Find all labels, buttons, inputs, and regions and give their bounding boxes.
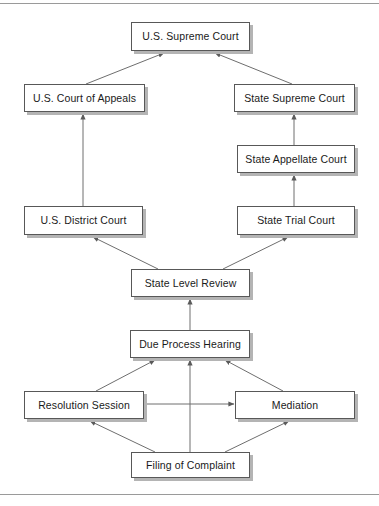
node-label: State Appellate Court [245, 154, 346, 165]
edge-filing-to-mediation [225, 421, 289, 452]
node-label: State Level Review [145, 278, 237, 289]
edge-mediation-to-hearing [225, 360, 283, 391]
edge-filing-to-resolution [90, 421, 155, 452]
node-state-supreme-court[interactable]: State Supreme Court [234, 84, 355, 112]
node-us-court-of-appeals[interactable]: U.S. Court of Appeals [24, 84, 145, 112]
edge-appeals-to-supreme [86, 53, 164, 84]
flow-diagram: U.S. Supreme Court U.S. Court of Appeals… [0, 0, 379, 506]
node-resolution-session[interactable]: Resolution Session [24, 391, 144, 419]
node-filing-of-complaint[interactable]: Filing of Complaint [131, 452, 250, 478]
node-us-supreme-court[interactable]: U.S. Supreme Court [131, 22, 250, 51]
node-state-appellate-court[interactable]: State Appellate Court [237, 145, 355, 173]
edge-review-to-district [93, 237, 158, 269]
node-label: U.S. Court of Appeals [33, 93, 136, 104]
node-label: U.S. Supreme Court [142, 31, 238, 42]
node-label: Resolution Session [38, 400, 130, 411]
edge-review-to-trial [223, 237, 288, 269]
node-label: Due Process Hearing [139, 339, 241, 350]
edge-resolution-to-hearing [96, 360, 155, 391]
node-label: State Trial Court [257, 215, 335, 226]
node-state-trial-court[interactable]: State Trial Court [237, 206, 355, 235]
node-label: State Supreme Court [244, 93, 345, 104]
node-mediation[interactable]: Mediation [235, 391, 355, 419]
node-label: Mediation [272, 400, 318, 411]
node-due-process-hearing[interactable]: Due Process Hearing [130, 330, 250, 358]
node-state-level-review[interactable]: State Level Review [131, 269, 250, 297]
node-label: Filing of Complaint [146, 460, 235, 471]
node-label: U.S. District Court [41, 215, 127, 226]
edge-state-supreme-to-supreme [215, 53, 292, 84]
edge-layer [0, 0, 379, 506]
node-us-district-court[interactable]: U.S. District Court [24, 206, 143, 235]
